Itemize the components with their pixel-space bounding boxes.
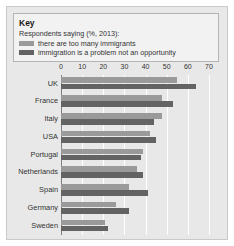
x-tick-label: 40 [142,63,150,70]
category-label: Netherlands [7,167,58,176]
bar-row: Sweden [7,217,228,235]
bar-problem-not-opportunity [61,137,156,143]
bar-row: UK [7,75,228,93]
bar-too-many-immigrants [61,149,143,155]
legend-swatch-icon [19,41,34,46]
bar-problem-not-opportunity [61,84,196,90]
category-label: Italy [7,114,58,123]
legend-entries: there are too many immigrantsimmigration… [19,39,213,57]
x-tick-label: 50 [163,63,171,70]
category-label: UK [7,79,58,88]
bar-too-many-immigrants [61,220,105,226]
category-label: Germany [7,203,58,212]
legend-title: Key [19,18,213,28]
bar-row: France [7,93,228,111]
bar-row: Netherlands [7,164,228,182]
bar-problem-not-opportunity [61,155,141,161]
bar-row: Italy [7,111,228,129]
legend-item-label: there are too many immigrants [38,39,135,48]
bar-too-many-immigrants [61,131,150,137]
x-tick-label: 10 [78,63,86,70]
bar-too-many-immigrants [61,95,162,101]
bar-rows: UKFranceItalyUSAPortugalNetherlandsSpain… [7,75,228,235]
x-tick-label: 20 [99,63,107,70]
bar-too-many-immigrants [61,184,129,190]
legend-item-label: immigration is a problem not an opportun… [38,48,176,57]
x-tick-label: 0 [59,63,63,70]
category-label: Spain [7,185,58,194]
bar-problem-not-opportunity [61,172,143,178]
bar-too-many-immigrants [61,77,177,83]
legend-item: there are too many immigrants [19,39,213,48]
plot-area: 010203040506070 UKFranceItalyUSAPortugal… [7,63,228,239]
bar-row: USA [7,128,228,146]
x-tick-label: 70 [205,63,213,70]
bar-problem-not-opportunity [61,190,148,196]
bar-problem-not-opportunity [61,208,129,214]
category-label: Sweden [7,221,58,230]
category-label: France [7,96,58,105]
x-tick-label: 30 [121,63,129,70]
legend-key-box: Key Respondents saying (%, 2013): there … [13,13,219,62]
bar-row: Spain [7,182,228,200]
bar-problem-not-opportunity [61,101,173,107]
legend-subtitle: Respondents saying (%, 2013): [19,29,213,38]
bar-problem-not-opportunity [61,119,154,125]
category-label: USA [7,132,58,141]
category-label: Portugal [7,150,58,159]
bar-row: Portugal [7,146,228,164]
legend-item: immigration is a problem not an opportun… [19,48,213,57]
bar-too-many-immigrants [61,113,162,119]
bar-too-many-immigrants [61,166,137,172]
bar-too-many-immigrants [61,202,116,208]
x-tick-label: 60 [184,63,192,70]
chart-figure: Key Respondents saying (%, 2013): there … [6,6,228,240]
bar-problem-not-opportunity [61,226,108,232]
legend-swatch-icon [19,50,34,55]
bar-row: Germany [7,199,228,217]
x-axis-tick-labels: 010203040506070 [7,63,228,75]
